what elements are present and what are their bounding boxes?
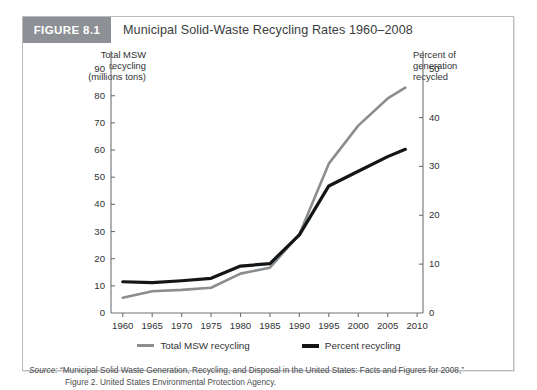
legend-item-total-msw-recycling: Total MSW recycling bbox=[137, 340, 249, 351]
y-axis-tick-50: 50 bbox=[81, 171, 105, 182]
figure-card: FIGURE 8.1 Municipal Solid-Waste Recycli… bbox=[22, 16, 514, 371]
source-note: Source: “Municipal Solid Waste Generatio… bbox=[29, 365, 511, 388]
series-line-2 bbox=[123, 149, 406, 282]
y-axis-tick-10: 10 bbox=[81, 280, 105, 291]
y-axis-tick-0: 0 bbox=[81, 307, 105, 318]
figure-number-badge: FIGURE 8.1 bbox=[23, 17, 111, 43]
source-text-line-1: “Municipal Solid Waste Generation, Recyc… bbox=[58, 365, 464, 375]
y-axis-tick-80: 80 bbox=[81, 90, 105, 101]
figure-header: FIGURE 8.1 Municipal Solid-Waste Recycli… bbox=[23, 17, 513, 43]
y2-axis-tick-30: 30 bbox=[429, 160, 453, 171]
y-axis-tick-60: 60 bbox=[81, 144, 105, 155]
series-line-1 bbox=[123, 88, 406, 298]
figure-title: Municipal Solid-Waste Recycling Rates 19… bbox=[123, 17, 413, 43]
y-axis-tick-70: 70 bbox=[81, 117, 105, 128]
chart-plot-area: Total MSW recycling (millions tons) Perc… bbox=[23, 43, 515, 372]
legend-label-total-msw-recycling: Total MSW recycling bbox=[160, 340, 249, 351]
source-note-line-2: Figure 2. United States Environmental Pr… bbox=[29, 377, 511, 389]
legend-label-percent-recycling: Percent recycling bbox=[325, 340, 401, 351]
chart-legend: Total MSW recycling Percent recycling bbox=[23, 340, 515, 351]
y-axis-tick-20: 20 bbox=[81, 253, 105, 264]
y-axis-tick-30: 30 bbox=[81, 226, 105, 237]
y2-axis-tick-50: 50 bbox=[429, 63, 453, 74]
y-axis-tick-40: 40 bbox=[81, 198, 105, 209]
legend-swatch-black-line-icon bbox=[302, 344, 319, 348]
legend-item-percent-recycling: Percent recycling bbox=[302, 340, 401, 351]
y-axis-tick-90: 90 bbox=[81, 63, 105, 74]
y2-axis-tick-10: 10 bbox=[429, 258, 453, 269]
source-note-line-1: Source: “Municipal Solid Waste Generatio… bbox=[29, 365, 511, 377]
legend-swatch-gray-line-icon bbox=[137, 344, 154, 347]
y2-axis-tick-20: 20 bbox=[429, 209, 453, 220]
x-axis-tick-2010: 2010 bbox=[400, 320, 434, 331]
y2-axis-tick-0: 0 bbox=[429, 307, 453, 318]
source-label: Source: bbox=[29, 365, 58, 375]
y2-axis-tick-40: 40 bbox=[429, 112, 453, 123]
line-chart-svg bbox=[23, 43, 515, 343]
